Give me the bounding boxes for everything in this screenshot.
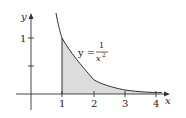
equation-denominator: x bbox=[96, 54, 101, 63]
x-tick-label-1: 1 bbox=[59, 98, 65, 109]
equation-numerator: 1 bbox=[99, 41, 104, 50]
y-axis-label: y bbox=[20, 11, 27, 22]
x-tick-label-3: 3 bbox=[122, 98, 128, 109]
equation-exponent: 2 bbox=[102, 51, 106, 58]
y-axis-arrow-icon bbox=[29, 13, 34, 19]
x-tick-label-2: 2 bbox=[91, 98, 97, 109]
x-axis-label: x bbox=[165, 95, 171, 106]
plot-figure: y x 1 1 2 3 4 y = 1 x 2 bbox=[0, 0, 186, 118]
equation-lhs: y = bbox=[77, 47, 95, 58]
y-tick-label-1: 1 bbox=[20, 33, 26, 44]
equation-label: y = 1 x 2 bbox=[77, 41, 108, 63]
x-tick-label-4: 4 bbox=[153, 98, 159, 109]
